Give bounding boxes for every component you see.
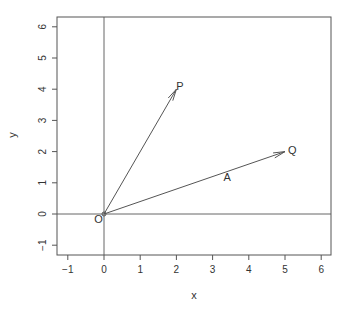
x-tick-label: −1: [62, 264, 74, 275]
vector-op: [104, 89, 176, 214]
axes: −10123456−10123456: [37, 17, 331, 275]
y-tick-label: 5: [37, 55, 48, 61]
y-tick-label: 4: [37, 86, 48, 92]
plot-data: OPQA: [94, 80, 297, 225]
x-tick-label: 4: [246, 264, 252, 275]
y-tick-label: 0: [37, 211, 48, 217]
y-axis-label: y: [6, 132, 18, 138]
x-tick-label: 6: [318, 264, 324, 275]
y-tick-label: 2: [37, 148, 48, 154]
x-tick-label: 1: [137, 264, 143, 275]
point-label-p: P: [176, 80, 183, 92]
y-tick-label: 1: [37, 180, 48, 186]
arrowhead-icon: [168, 89, 176, 100]
point-label-q: Q: [288, 144, 297, 156]
point-label-a: A: [223, 171, 231, 183]
x-tick-label: 2: [174, 264, 180, 275]
x-axis-label: x: [191, 289, 197, 301]
x-tick-label: 3: [210, 264, 216, 275]
vector-oq: [104, 152, 285, 214]
y-tick-label: 6: [37, 24, 48, 30]
y-tick-label: −1: [37, 239, 48, 251]
x-tick-label: 5: [282, 264, 288, 275]
y-tick-label: 3: [37, 117, 48, 123]
x-tick-label: 0: [101, 264, 107, 275]
point-label-o: O: [94, 213, 103, 225]
vector-plot: −10123456−10123456 OPQA x y: [0, 0, 343, 310]
